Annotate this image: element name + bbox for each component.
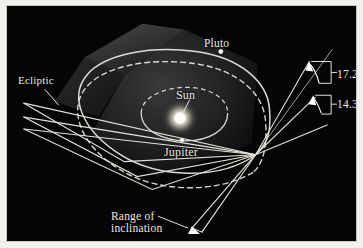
pluto-marker (218, 49, 223, 54)
angle-ray-14-3 (256, 97, 316, 155)
angle-fan-group (256, 50, 333, 155)
range-of-inclination-leader (158, 216, 188, 228)
orbit-diagram-svg (7, 6, 356, 241)
wedge-line-lower (202, 155, 256, 232)
sun-core (174, 112, 185, 123)
angle-bracket-14-3 (315, 95, 337, 114)
angle-ray-17-2 (256, 62, 310, 155)
ecliptic-leader-line (45, 89, 59, 105)
figure-container: Ecliptic Pluto Sun Jupiter Range of incl… (0, 0, 363, 248)
diagram-plate: Ecliptic Pluto Sun Jupiter Range of incl… (6, 5, 357, 242)
sun-group (160, 98, 200, 138)
inclination-wedge-group (192, 155, 256, 232)
angle-bracket-group (311, 62, 337, 115)
ecliptic-plane-group (55, 24, 258, 177)
